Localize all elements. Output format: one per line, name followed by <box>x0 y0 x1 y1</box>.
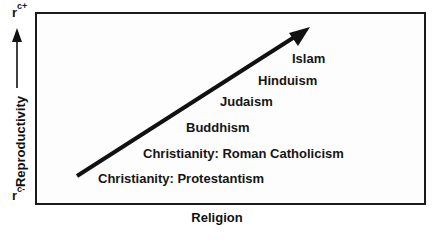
religion-hinduism: Hinduism <box>258 73 317 88</box>
x-axis-title: Religion <box>0 210 434 225</box>
y-axis-arrow-icon <box>12 28 22 42</box>
religion-judaism: Judaism <box>220 94 273 109</box>
religion-islam: Islam <box>292 51 325 66</box>
religion-buddhism: Buddhism <box>186 120 250 135</box>
religion-roman-catholicism: Christianity: Roman Catholicism <box>143 146 344 161</box>
arrowhead-icon <box>289 27 310 46</box>
religion-protestantism: Christianity: Protestantism <box>98 171 264 186</box>
y-axis-title: Reproductivity <box>13 82 28 202</box>
y-axis-top-label: rc+ <box>12 4 27 20</box>
